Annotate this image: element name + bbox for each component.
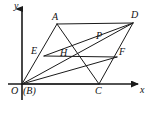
geometry-canvas (0, 0, 150, 113)
point-label-D: D (131, 10, 138, 20)
point-label-F: F (119, 47, 125, 57)
point-label-C: C (95, 86, 102, 96)
point-label-E: E (31, 46, 37, 56)
point-label-P: P (96, 31, 102, 41)
point-label-A: A (52, 12, 58, 22)
point-label-O: O (11, 86, 18, 96)
segment-AD (57, 23, 133, 24)
x-axis-label: x (140, 85, 144, 95)
segment-EF (44, 56, 117, 57)
geometry-figure: A D E P F H C O (B) y x (0, 0, 150, 113)
segment-OA (22, 24, 57, 84)
segment-OF (22, 57, 117, 84)
point-label-H: H (60, 48, 67, 58)
point-label-B-alias: (B) (23, 86, 36, 96)
y-axis-label: y (14, 1, 18, 11)
